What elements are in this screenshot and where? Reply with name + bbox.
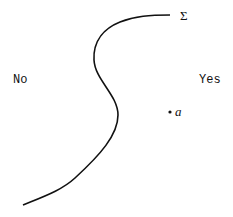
point-a-label: a <box>175 104 182 119</box>
region-label-no: No <box>13 73 27 87</box>
region-label-yes: Yes <box>199 73 221 87</box>
point-a-marker <box>168 110 171 113</box>
diagram-canvas: Σ No Yes a <box>0 0 233 217</box>
surface-label-sigma: Σ <box>180 8 188 23</box>
separating-surface-curve <box>23 15 170 205</box>
